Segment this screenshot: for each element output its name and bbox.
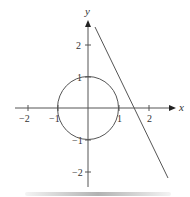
straight-line: [95, 27, 168, 178]
y-axis-label: y: [84, 5, 90, 17]
diagram-canvas: x y −2 −1 1 2 2 1 −1 −2: [0, 0, 190, 197]
x-tick-label: −2: [19, 113, 30, 124]
y-tick-label: −1: [72, 135, 83, 146]
x-axis-label: x: [178, 101, 184, 113]
x-axis-arrow-icon: [169, 105, 176, 111]
y-axis-arrow-icon: [85, 20, 91, 27]
x-tick-label: 2: [147, 113, 152, 124]
bottom-shadow-divider: [25, 192, 171, 196]
y-tick-label: −2: [72, 167, 83, 178]
y-tick-label: 2: [76, 40, 81, 51]
